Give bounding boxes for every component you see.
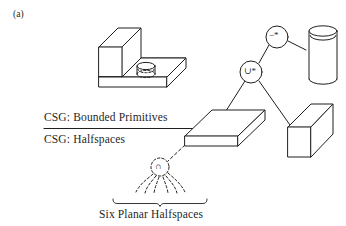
panel-label: (a)	[13, 10, 24, 20]
edge-difference-to-cylinder	[288, 41, 306, 50]
label-csg-bounded-primitives: CSG: Bounded Primitives	[44, 112, 168, 124]
halfspace-ray-6	[168, 173, 185, 192]
intersection-operator-glyph: ∩	[155, 162, 162, 171]
halfspaces-brace	[113, 199, 207, 207]
label-csg-halfspaces: CSG: Halfspaces	[44, 134, 125, 146]
halfspace-ray-4	[163, 177, 168, 193]
l-shaped-solid-with-hole	[99, 28, 186, 87]
union-operator-glyph: ∪*	[244, 67, 256, 76]
edge-union-to-slab	[224, 81, 245, 114]
difference-operator-glyph: −*	[269, 31, 279, 40]
caption-six-planar-halfspaces: Six Planar Halfspaces	[99, 209, 203, 221]
csg-figure-panel: (a) CSG: Bounded Primitives CSG: Halfspa…	[0, 0, 346, 226]
edge-difference-to-union	[259, 45, 269, 63]
halfspace-ray-3	[154, 177, 159, 193]
slab-box-primitive	[185, 110, 265, 146]
upright-box-primitive	[288, 104, 333, 157]
cylinder-primitive	[309, 26, 337, 84]
edge-slab-to-intersection	[168, 145, 185, 161]
